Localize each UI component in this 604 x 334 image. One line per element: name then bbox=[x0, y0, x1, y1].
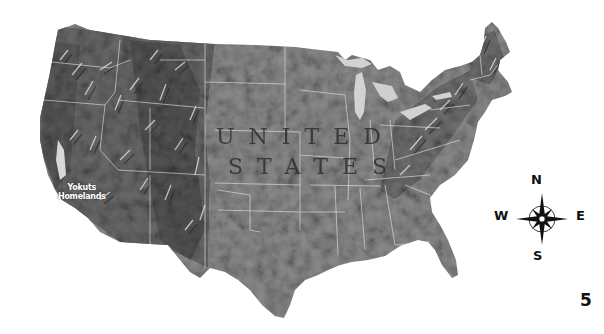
country-label-united: UNITED bbox=[216, 124, 395, 149]
compass-north: N bbox=[531, 172, 542, 187]
country-label-states: STATES bbox=[228, 154, 401, 179]
compass-east: E bbox=[576, 208, 585, 223]
compass-rose: N W E S bbox=[492, 172, 592, 272]
region-label-line1: Yokuts bbox=[58, 183, 106, 192]
region-label-line2: Homelands bbox=[58, 192, 106, 201]
page-number: 5 bbox=[580, 290, 592, 310]
compass-south: S bbox=[533, 248, 542, 263]
compass-star-icon bbox=[508, 190, 576, 248]
compass-west: W bbox=[494, 208, 508, 223]
yokuts-homelands-label: Yokuts Homelands bbox=[58, 183, 106, 201]
